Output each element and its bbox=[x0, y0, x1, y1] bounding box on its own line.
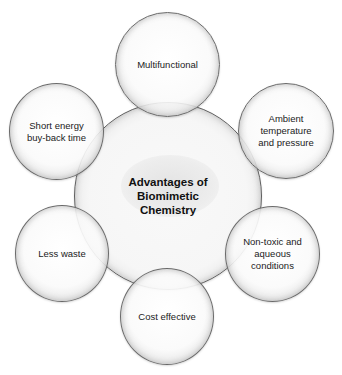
node-less-waste: Less waste bbox=[15, 205, 109, 302]
node-multifunctional: Multifunctional bbox=[115, 12, 220, 117]
node-label: Less waste bbox=[38, 248, 86, 260]
node-label: Short energy buy-back time bbox=[27, 120, 86, 144]
center-title: Advantages of Biomimetic Chemistry bbox=[128, 175, 207, 217]
biomimetic-advantages-diagram: Advantages of Biomimetic Chemistry Multi… bbox=[0, 0, 342, 375]
node-label: Multifunctional bbox=[137, 59, 198, 71]
node-label: Cost effective bbox=[138, 311, 195, 323]
node-ambient-temperature: Ambient temperature and pressure bbox=[238, 83, 334, 179]
node-label: Non-toxic and aqueous conditions bbox=[243, 236, 302, 272]
node-short-energy: Short energy buy-back time bbox=[9, 83, 104, 180]
node-label: Ambient temperature and pressure bbox=[258, 113, 313, 149]
node-cost-effective: Cost effective bbox=[120, 268, 214, 365]
node-non-toxic: Non-toxic and aqueous conditions bbox=[225, 206, 320, 302]
